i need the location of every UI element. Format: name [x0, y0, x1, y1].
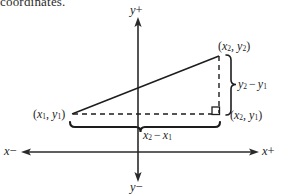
y-positive-axis-label: y+	[130, 4, 143, 17]
vertical-leg-label: y2−y1	[238, 78, 267, 91]
clipped-body-text: coordinates.	[0, 0, 66, 8]
x-positive-axis-label: x+	[262, 145, 275, 158]
distance-formula-diagram	[0, 0, 283, 196]
horizontal-leg-label: x2−x1	[143, 129, 172, 142]
point-label-p2: (x2, y2)	[218, 40, 250, 53]
point-label-p2-y1: (x2, y1)	[230, 109, 262, 122]
x-negative-axis-label: x−	[4, 145, 17, 158]
point-label-p1: (x1, y1)	[33, 108, 65, 121]
hypotenuse-segment	[72, 56, 219, 114]
vertical-brace	[226, 55, 236, 115]
figure-canvas: coordinates. y+ y− x− x+ (x2, y2) (x1, y…	[0, 0, 283, 196]
x-axis	[21, 148, 259, 155]
y-axis	[134, 17, 141, 182]
y-negative-axis-label: y−	[130, 181, 143, 194]
